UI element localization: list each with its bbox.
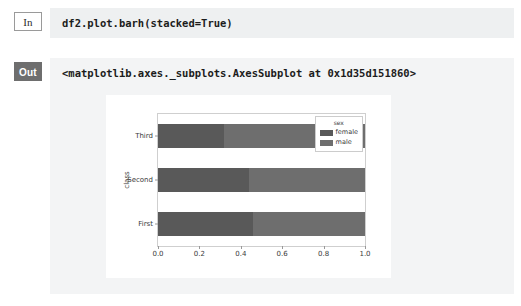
legend-label: female bbox=[336, 128, 358, 137]
notebook-input-cell[interactable]: In df2.plot.barh(stacked=True) bbox=[0, 8, 514, 38]
bar-row bbox=[158, 168, 365, 192]
x-tick-label: 0.4 bbox=[235, 251, 246, 258]
y-tick-mark bbox=[155, 224, 158, 225]
bar-segment-male bbox=[253, 212, 365, 236]
x-tick-label: 0.2 bbox=[194, 251, 205, 258]
bar-segment-female bbox=[158, 124, 224, 148]
x-tick-label: 1.0 bbox=[359, 251, 370, 258]
matplotlib-figure: class ThirdSecondFirst 0.00.20.40.60.81.… bbox=[106, 95, 391, 278]
output-repr-text: <matplotlib.axes._subplots.AxesSubplot a… bbox=[50, 58, 514, 79]
chart-legend: sex femalemale bbox=[315, 116, 363, 152]
y-tick-label: First bbox=[138, 221, 153, 228]
code-editor-area[interactable]: df2.plot.barh(stacked=True) bbox=[50, 8, 514, 38]
x-tick-mark bbox=[241, 246, 242, 249]
legend-swatch-female bbox=[320, 130, 333, 136]
legend-label: male bbox=[336, 138, 352, 147]
bar-segment-male bbox=[249, 168, 365, 192]
legend-swatch-male bbox=[320, 140, 333, 146]
y-tick-mark bbox=[155, 180, 158, 181]
x-tick-label: 0.6 bbox=[277, 251, 288, 258]
bar-row bbox=[158, 212, 365, 236]
x-tick-mark bbox=[282, 246, 283, 249]
bar-segment-female bbox=[158, 168, 249, 192]
chart-axes: class ThirdSecondFirst 0.00.20.40.60.81.… bbox=[157, 113, 366, 247]
x-tick-label: 0.8 bbox=[318, 251, 329, 258]
bar-segment-female bbox=[158, 212, 253, 236]
legend-entry: male bbox=[320, 138, 358, 147]
x-tick-mark bbox=[324, 246, 325, 249]
output-area: <matplotlib.axes._subplots.AxesSubplot a… bbox=[50, 58, 514, 294]
y-tick-mark bbox=[155, 136, 158, 137]
notebook-output-cell: Out <matplotlib.axes._subplots.AxesSubpl… bbox=[0, 58, 514, 294]
x-tick-label: 0.0 bbox=[152, 251, 163, 258]
legend-title: sex bbox=[320, 119, 358, 127]
x-tick-mark bbox=[158, 246, 159, 249]
legend-entries: femalemale bbox=[320, 128, 358, 147]
x-tick-mark bbox=[365, 246, 366, 249]
output-prompt-label: Out bbox=[14, 62, 42, 81]
input-prompt-label: In bbox=[14, 12, 42, 31]
x-tick-mark bbox=[199, 246, 200, 249]
y-tick-label: Third bbox=[135, 133, 153, 140]
legend-entry: female bbox=[320, 128, 358, 137]
code-line[interactable]: df2.plot.barh(stacked=True) bbox=[50, 17, 233, 29]
y-tick-label: Second bbox=[127, 177, 153, 184]
